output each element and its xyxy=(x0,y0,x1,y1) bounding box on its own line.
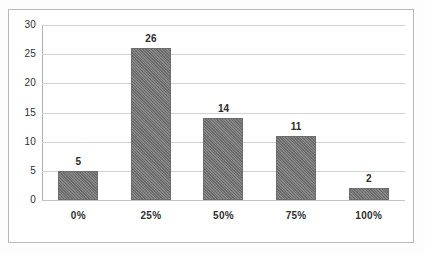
x-tick-label: 0% xyxy=(42,210,115,221)
y-tick-label: 30 xyxy=(4,20,36,30)
y-tick-label: 20 xyxy=(4,78,36,88)
y-tick-label: 0 xyxy=(4,195,36,205)
bar-chart-figure: 051015202530 52614112 0%25%50%75%100% xyxy=(0,0,425,254)
y-tick-label: 15 xyxy=(4,108,36,118)
y-axis: 051015202530 xyxy=(0,0,36,254)
x-tick-label: 50% xyxy=(187,210,260,221)
y-tick-label: 25 xyxy=(4,49,36,59)
x-tick-label: 25% xyxy=(115,210,188,221)
x-tick-label: 75% xyxy=(260,210,333,221)
y-tick-label: 5 xyxy=(4,166,36,176)
x-tick-label: 100% xyxy=(332,210,405,221)
x-axis: 0%25%50%75%100% xyxy=(42,0,405,254)
y-tick-label: 10 xyxy=(4,137,36,147)
